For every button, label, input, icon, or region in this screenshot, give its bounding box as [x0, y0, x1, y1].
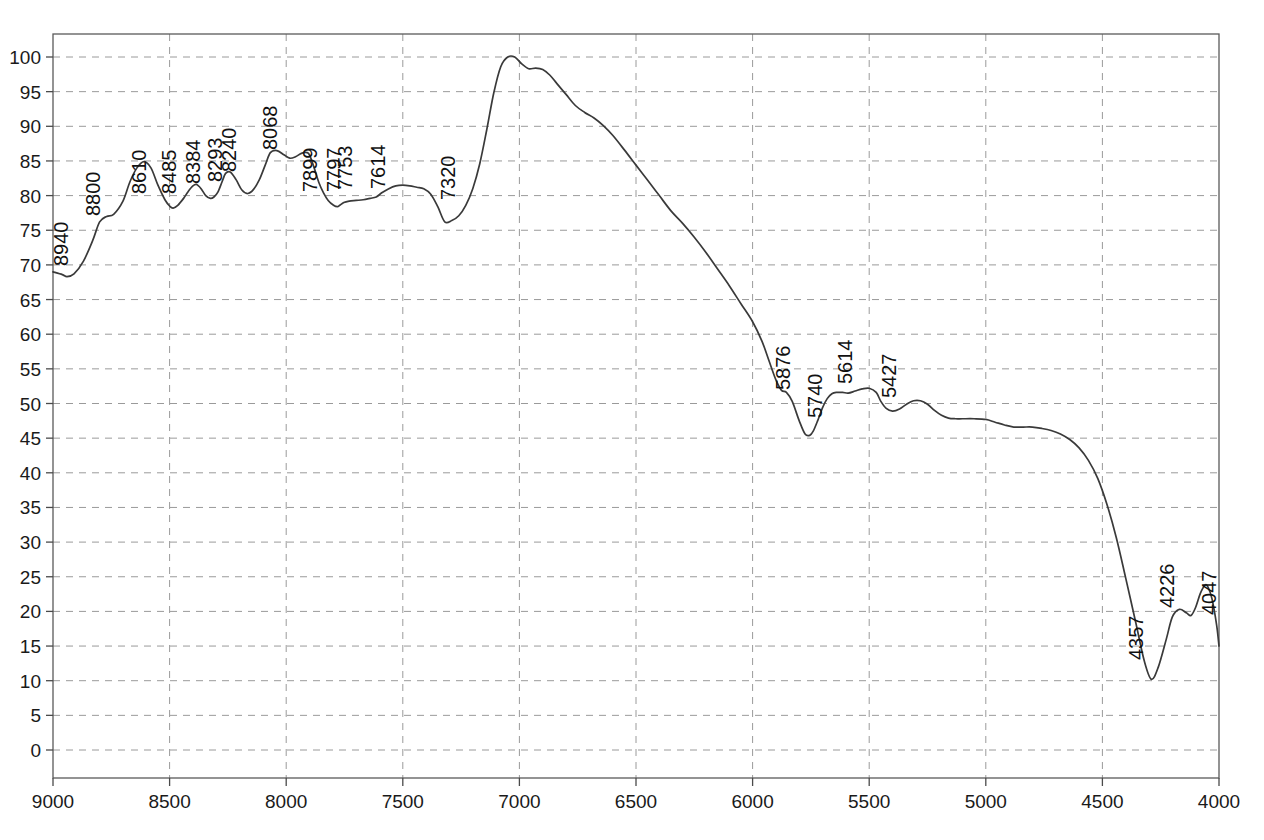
- peak-label: 8800: [82, 172, 104, 217]
- x-tick-label: 9000: [32, 791, 74, 812]
- peak-label: 7899: [299, 148, 321, 193]
- y-tick-label: 0: [30, 740, 41, 761]
- peak-label: 8940: [50, 222, 72, 267]
- x-tick-label: 5500: [848, 791, 890, 812]
- x-tick-label: 7500: [382, 791, 424, 812]
- x-tick-label: 6500: [615, 791, 657, 812]
- peak-label: 8068: [259, 106, 281, 151]
- peak-label: 7753: [334, 146, 356, 191]
- y-tick-label: 85: [20, 151, 41, 172]
- peak-label: 8240: [218, 128, 240, 173]
- peak-label: 5740: [804, 374, 826, 419]
- y-tick-label: 70: [20, 255, 41, 276]
- peak-label: 4226: [1156, 564, 1178, 609]
- y-tick-label: 90: [20, 116, 41, 137]
- y-tick-label: 100: [9, 47, 41, 68]
- x-tick-label: 5000: [965, 791, 1007, 812]
- y-tick-label: 35: [20, 497, 41, 518]
- x-tick-label: 8500: [148, 791, 190, 812]
- nir-spectrum-chart: 0510152025303540455055606570758085909510…: [0, 0, 1264, 840]
- x-tick-label: 8000: [265, 791, 307, 812]
- y-tick-label: 10: [20, 671, 41, 692]
- peak-label: 5614: [834, 340, 856, 385]
- y-tick-label: 30: [20, 532, 41, 553]
- y-tick-label: 65: [20, 290, 41, 311]
- peak-label: 5876: [772, 346, 794, 391]
- y-tick-label: 75: [20, 220, 41, 241]
- peak-label: 8485: [158, 150, 180, 195]
- y-tick-label: 60: [20, 324, 41, 345]
- peak-label: 5427: [878, 354, 900, 399]
- x-tick-label: 4000: [1198, 791, 1240, 812]
- peak-label: 4047: [1198, 571, 1220, 616]
- y-tick-label: 45: [20, 428, 41, 449]
- y-tick-label: 55: [20, 359, 41, 380]
- y-axis-ticks: [46, 57, 53, 750]
- peak-label: 4357: [1125, 616, 1147, 661]
- x-tick-label: 6000: [731, 791, 773, 812]
- y-tick-label: 40: [20, 463, 41, 484]
- y-tick-label: 20: [20, 601, 41, 622]
- peak-label: 8610: [128, 150, 150, 195]
- y-tick-label: 95: [20, 82, 41, 103]
- peak-label: 7614: [367, 145, 389, 190]
- y-tick-label: 25: [20, 567, 41, 588]
- x-tick-label: 7000: [498, 791, 540, 812]
- y-tick-label: 80: [20, 186, 41, 207]
- peak-label: 7320: [437, 156, 459, 201]
- y-tick-label: 15: [20, 636, 41, 657]
- y-tick-label: 50: [20, 394, 41, 415]
- spectrum-plot: 0510152025303540455055606570758085909510…: [0, 0, 1264, 840]
- x-tick-label: 4500: [1081, 791, 1123, 812]
- peak-label: 8384: [182, 140, 204, 185]
- y-tick-label: 5: [30, 705, 41, 726]
